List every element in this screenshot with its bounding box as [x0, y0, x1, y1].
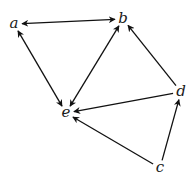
edge-c-e [73, 117, 153, 164]
node-d: d [176, 84, 186, 99]
edge-c-d [162, 100, 179, 161]
edge-a-b [22, 19, 115, 23]
node-e: e [62, 105, 71, 120]
edge-layer [0, 0, 194, 181]
edge-d-e [74, 93, 173, 111]
edge-a-e [18, 31, 62, 106]
node-c: c [156, 160, 164, 175]
node-a: a [10, 16, 19, 31]
edge-b-e [70, 26, 119, 106]
graph-diagram: a b d e c [0, 0, 194, 181]
edge-d-b [128, 25, 176, 85]
node-b: b [118, 11, 128, 26]
